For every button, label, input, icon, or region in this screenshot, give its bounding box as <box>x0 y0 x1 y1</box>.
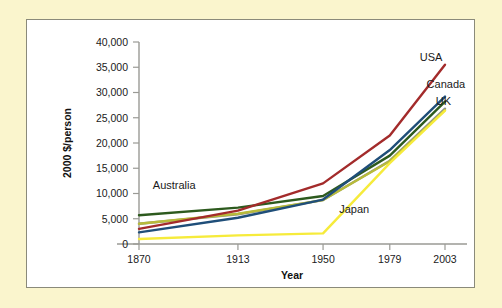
series-annotation-uk: UK <box>436 95 452 107</box>
series-annotation-japan: Japan <box>339 203 369 215</box>
y-tick-label: 15,000 <box>96 162 128 174</box>
chart-panel: AustraliaJapanUSACanadaUK 05,00010,00015… <box>26 19 475 288</box>
y-tick-label: 35,000 <box>96 61 128 73</box>
y-tick-label: 20,000 <box>96 137 128 149</box>
series-annotation-canada: Canada <box>427 78 466 90</box>
series-layer <box>139 65 445 239</box>
y-tick-label: 25,000 <box>96 112 128 124</box>
series-line-australia <box>139 102 445 216</box>
x-tick-label: 1950 <box>311 253 335 265</box>
x-tick-label: 1913 <box>226 253 250 265</box>
y-tick-label: 40,000 <box>96 36 128 48</box>
line-chart: AustraliaJapanUSACanadaUK 05,00010,00015… <box>27 20 476 289</box>
x-tick-label: 1979 <box>378 253 402 265</box>
figure-container: AustraliaJapanUSACanadaUK 05,00010,00015… <box>0 0 502 308</box>
series-annotation-usa: USA <box>420 51 443 63</box>
axis-layer <box>117 42 467 250</box>
x-tick-label: 1870 <box>127 253 151 265</box>
series-annotation-australia: Australia <box>153 179 197 191</box>
y-tick-label: 5,000 <box>102 213 128 225</box>
x-tick-label: 2003 <box>433 253 457 265</box>
y-tick-label: 30,000 <box>96 86 128 98</box>
y-tick-label: 10,000 <box>96 187 128 199</box>
y-axis-title: 2000 $/person <box>61 108 73 178</box>
y-tick-label: 0 <box>122 238 128 250</box>
x-axis-title: Year <box>281 269 303 281</box>
